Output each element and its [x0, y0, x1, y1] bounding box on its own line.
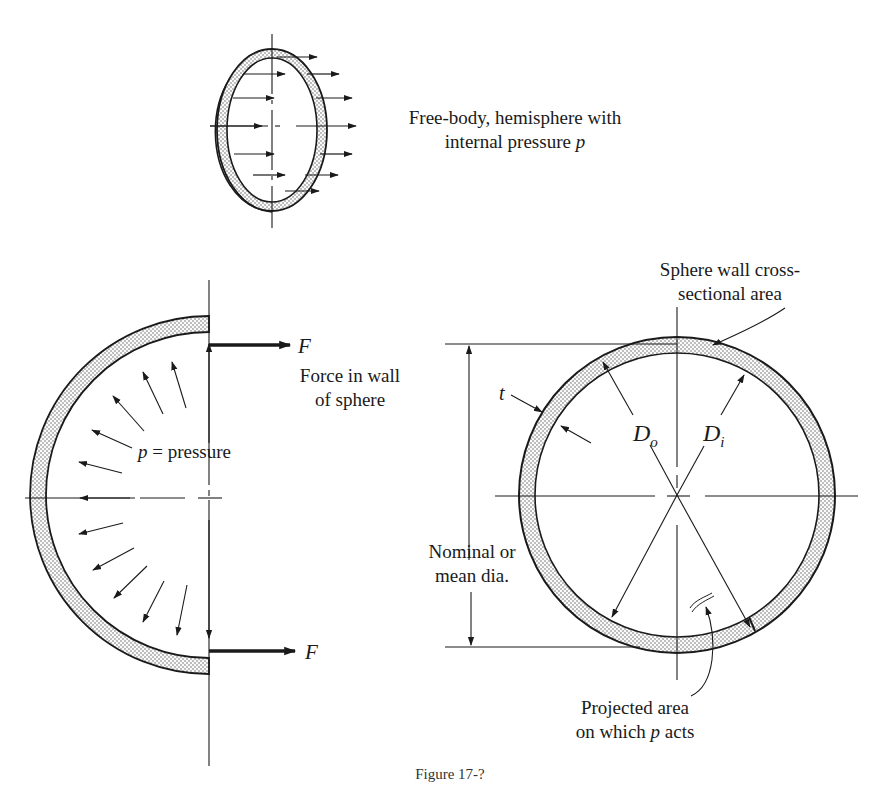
wall-area-leader [713, 308, 785, 345]
outer-diameter-label: Do [633, 421, 658, 454]
pressure-variable: p [138, 441, 148, 462]
projected-label-line2: on which p acts [550, 720, 720, 744]
force-in-wall-label: Force in wall of sphere [285, 364, 415, 412]
figure-caption: Figure 17-? [380, 762, 520, 786]
pressure-label: p = pressure [138, 440, 231, 464]
force-label-line2: of sphere [285, 388, 415, 412]
thickness-arrow-outer [511, 395, 542, 412]
wall-area-label-line2: sectional area [620, 282, 840, 306]
free-body-hemisphere [210, 34, 356, 228]
force-symbol-top: F [298, 334, 311, 358]
free-body-label: Free-body, hemisphere with internal pres… [395, 106, 635, 154]
force-symbol-bottom: F [305, 640, 318, 664]
free-body-label-line2: internal pressure p [395, 130, 635, 154]
sphere-section [445, 307, 858, 696]
projected-area-label: Projected area on which p acts [550, 696, 720, 744]
nominal-label-line2: mean dia. [412, 564, 532, 588]
inner-diameter-label: Di [703, 421, 725, 454]
thickness-symbol: t [499, 381, 505, 405]
wall-area-label: Sphere wall cross- sectional area [620, 258, 840, 306]
projected-label-line1: Projected area [550, 696, 720, 720]
free-body-label-line1: Free-body, hemisphere with [395, 106, 635, 130]
pressure-variable: p [576, 131, 586, 152]
pressure-variable: p [651, 721, 661, 742]
nominal-diameter-label: Nominal or mean dia. [412, 540, 532, 588]
hemisphere-section [25, 280, 295, 766]
nominal-label-line1: Nominal or [412, 540, 532, 564]
wall-area-label-line1: Sphere wall cross- [620, 258, 840, 282]
pressure-arrows-left [79, 344, 209, 638]
force-label-line1: Force in wall [285, 364, 415, 388]
